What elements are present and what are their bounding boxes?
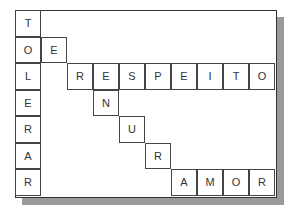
grid-cell: L (15, 63, 41, 90)
grid-cell: E (171, 63, 197, 90)
grid-cell: O (223, 169, 249, 196)
grid-cell: I (197, 63, 223, 90)
grid-cell: S (119, 63, 145, 90)
grid-cell: R (15, 116, 41, 143)
grid-cell: T (223, 63, 249, 90)
grid-cell: E (93, 63, 119, 90)
grid-cell: R (249, 169, 275, 196)
grid-cell: A (15, 143, 41, 170)
grid-cell: A (171, 169, 197, 196)
grid-cell: N (93, 90, 119, 117)
grid-cell: P (145, 63, 171, 90)
grid-cell: R (145, 143, 171, 170)
grid-cell: T (15, 10, 41, 37)
grid-cell: O (249, 63, 275, 90)
grid-cell: E (41, 37, 67, 64)
grid-cell: O (15, 37, 41, 64)
grid-cell: R (67, 63, 93, 90)
puzzle-frame: TOELRESPEITOENRUARRAMOR (15, 10, 277, 198)
grid-cell: E (15, 90, 41, 117)
grid-cell: R (15, 169, 41, 196)
grid-cell: U (119, 116, 145, 143)
grid-cell: M (197, 169, 223, 196)
